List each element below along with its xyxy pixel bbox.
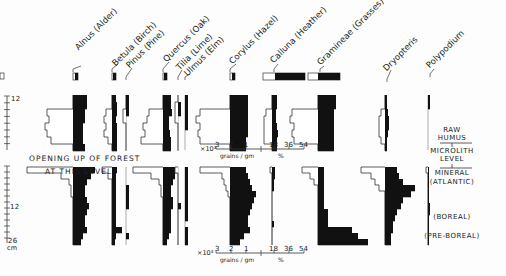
surface-bar-calluna [263,73,305,80]
pct-bar-dryopteris [385,233,391,239]
pct-bar-calluna [272,173,275,179]
pct-bar-quercus [163,102,171,109]
pct-bar-gramineae [318,116,334,123]
pct-bar-pinus [126,95,129,102]
pct-bar-betula [112,109,117,116]
pct-bar-quercus [163,215,171,221]
pct-bar-alnus [73,179,87,185]
depth-axis [4,96,10,243]
column-gramineae [290,95,336,151]
pct-bar-gramineae [318,179,324,185]
column-tilia [175,167,181,245]
pct-bar-alnus [73,221,85,227]
pct-bar-corylus [230,197,254,203]
pct-bar-dryopteris [385,123,389,130]
pct-bar-dryopteris [385,203,401,209]
pct-bar-alnus [73,209,87,215]
pct-bar-calluna [272,102,277,109]
pct-bar-corylus [230,173,248,179]
column-calluna [270,167,275,245]
pct-bar-tilia [178,203,181,209]
pct-bar-dryopteris [385,227,393,233]
pct-bar-ulmus [185,95,188,102]
zone-raw-humus: RAW HUMUS [432,126,472,142]
scale-lower-p54: 54 [299,245,308,253]
surface-bar-betula [112,73,116,80]
scale-upper-abs-unit: grains / gm [220,152,254,159]
pct-bar-quercus [163,109,172,116]
surface-bar-gramineae [308,73,340,80]
pct-bar-corylus [230,109,248,116]
column-ulmus [185,167,188,245]
pct-bar-gramineae [318,130,334,137]
pct-bar-quercus [163,209,171,215]
pct-bar-betula [112,123,117,130]
pct-bar-betula [112,197,116,203]
abs-outline-tilia [175,95,178,151]
column-ulmus [185,95,188,150]
pct-bar-ulmus [185,191,188,197]
pct-bar-quercus [163,185,171,191]
scale-upper-t1: 1 [244,141,248,149]
pct-bar-calluna [272,130,278,137]
scale-upper-pct-unit: % [278,152,284,159]
surface-sample-bars [0,73,340,80]
pct-bar-ulmus [185,239,188,245]
pct-bar-dryopteris [385,109,388,116]
pct-bar-quercus [163,144,171,151]
pct-bar-betula [112,239,115,245]
pct-bar-ulmus [185,233,188,239]
pct-bar-alnus [73,144,85,151]
pct-bar-corylus [230,167,246,173]
pct-bar-dryopteris [385,197,403,203]
pct-bar-calluna [272,221,274,227]
pct-bar-dryopteris [385,130,388,137]
pct-bar-gramineae [318,123,334,130]
pct-bar-betula [112,95,116,102]
column-corylus [200,167,256,245]
pct-bar-corylus [230,95,248,102]
scale-lower-p18: 18 [269,245,278,253]
pct-bar-quercus [163,197,173,203]
pct-bar-corylus [230,233,244,239]
abs-outline-pinus [123,95,126,151]
scale-upper-prefix: ×10³ [200,145,216,153]
pct-bar-betula [112,203,116,209]
depth-label-upper-12: 12 [11,95,20,103]
pct-bar-dryopteris [385,221,393,227]
column-pinus [123,95,129,151]
pct-bar-dryopteris [385,102,387,109]
pct-bar-betula [112,209,116,215]
pct-bar-dryopteris [385,215,395,221]
pct-bar-betula [112,173,116,179]
pct-bar-gramineae [318,95,336,102]
scale-upper-p36: 36 [284,141,293,149]
pct-bar-gramineae [318,167,324,173]
zone-microlith-2: LEVEL [417,155,487,163]
pct-bar-dryopteris [385,185,415,191]
scale-lower-abs-unit: grains / gm [220,256,254,263]
pct-bar-pinus [126,197,129,203]
pct-bar-corylus [230,203,252,209]
pct-bar-corylus [230,102,248,109]
pct-bar-tilia [178,102,181,109]
pct-bar-quercus [163,221,171,227]
abs-outline-calluna [270,167,272,245]
pct-bar-gramineae [318,197,324,203]
pct-bar-alnus [73,227,87,233]
abs-outline-alnus [27,167,73,245]
pct-bar-dryopteris [385,144,387,151]
pct-bar-betula [112,215,116,221]
pct-bar-quercus [163,116,169,123]
pct-bar-polypodium [428,221,429,227]
pct-bar-pinus [126,203,129,209]
pct-bar-dryopteris [385,167,397,173]
scale-lower-t1: 1 [244,245,248,253]
pct-bar-ulmus [185,209,188,215]
column-alnus [45,95,87,151]
pct-bar-gramineae [318,239,368,245]
pct-bar-alnus [73,102,87,109]
pct-bar-pinus [126,191,129,197]
pct-bar-quercus [163,123,169,130]
pct-bar-betula [112,144,117,151]
